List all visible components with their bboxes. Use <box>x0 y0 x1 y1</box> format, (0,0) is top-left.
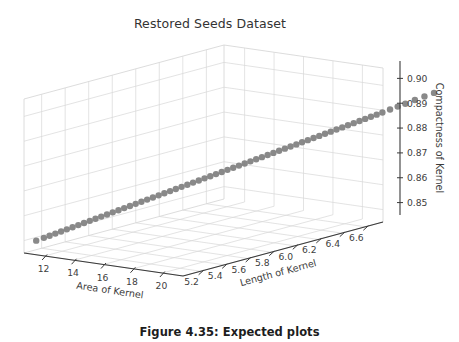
data-point <box>373 111 379 117</box>
data-point <box>305 137 311 143</box>
data-point <box>92 216 98 222</box>
figure-caption: Figure 4.35: Expected plots <box>0 325 459 339</box>
data-point <box>167 188 173 194</box>
data-point <box>293 141 299 147</box>
data-point <box>241 160 247 166</box>
z-axis-tick-label: 0.85 <box>407 197 428 208</box>
data-point <box>316 133 322 139</box>
y-axis-tick-label: 5.8 <box>255 257 270 268</box>
data-point <box>236 162 242 168</box>
data-point <box>161 190 167 196</box>
data-point <box>230 165 236 171</box>
data-point <box>201 175 207 181</box>
y-axis-tick-label: 6.4 <box>326 238 341 249</box>
data-point <box>46 233 52 239</box>
y-axis-tick-label: 5.2 <box>184 276 199 287</box>
y-axis-tick-label: 5.6 <box>231 264 246 275</box>
chart-title: Restored Seeds Dataset <box>0 16 420 31</box>
x-axis-tick-label: 16 <box>97 272 109 283</box>
data-point <box>196 177 202 183</box>
z-axis-tick-label: 0.87 <box>407 147 428 158</box>
y-axis-tick-label: 6.0 <box>278 251 293 262</box>
data-point <box>87 218 93 224</box>
data-point <box>362 116 368 122</box>
data-point <box>259 154 265 160</box>
data-point <box>253 156 259 162</box>
z-axis-tick-label: 0.86 <box>407 172 428 183</box>
data-point <box>264 152 270 158</box>
x-axis-tick-label: 20 <box>156 280 168 291</box>
data-point <box>287 143 293 149</box>
data-point <box>190 179 196 185</box>
data-point <box>104 211 110 217</box>
data-point <box>155 192 161 198</box>
z-axis-tick-label: 0.88 <box>407 122 428 133</box>
data-point <box>98 213 104 219</box>
data-point <box>276 148 282 154</box>
data-point <box>127 203 133 209</box>
data-point <box>64 226 70 232</box>
data-point <box>345 122 351 128</box>
data-point <box>33 237 39 243</box>
data-point <box>270 150 276 156</box>
x-axis-tick-label: 14 <box>67 267 79 278</box>
y-axis-tick-label: 6.2 <box>302 244 317 255</box>
data-point <box>328 128 334 134</box>
z-axis-tick-label: 0.90 <box>407 73 428 84</box>
data-point <box>333 126 339 132</box>
data-point <box>282 145 288 151</box>
data-point <box>150 194 156 200</box>
data-point <box>379 109 385 115</box>
data-point <box>75 222 81 228</box>
data-point <box>299 139 305 145</box>
data-point <box>173 186 179 192</box>
data-point <box>219 169 225 175</box>
data-point <box>207 173 213 179</box>
x-axis-tick-label: 12 <box>38 263 50 274</box>
figure-container: 1214161820Area of Kernel5.25.45.65.86.06… <box>0 0 459 342</box>
y-axis-tick-label: 5.4 <box>208 270 223 281</box>
x-axis-tick-label: 18 <box>126 276 138 287</box>
data-point <box>138 199 144 205</box>
data-point <box>81 220 87 226</box>
data-point <box>351 120 357 126</box>
data-point <box>178 184 184 190</box>
data-point <box>41 235 47 241</box>
data-point <box>52 230 58 236</box>
z-axis-tick-label: 0.89 <box>407 98 428 109</box>
scatter3d-plot: 1214161820Area of Kernel5.25.45.65.86.06… <box>0 0 459 318</box>
data-point <box>387 106 393 112</box>
z-axis-label: Compactness of Kernel <box>434 83 445 193</box>
data-point <box>310 135 316 141</box>
data-point <box>115 207 121 213</box>
data-point <box>121 205 127 211</box>
data-point <box>224 167 230 173</box>
data-point <box>247 158 253 164</box>
data-point <box>132 201 138 207</box>
data-point <box>322 131 328 137</box>
data-point <box>144 196 150 202</box>
data-point <box>356 118 362 124</box>
data-point <box>213 171 219 177</box>
data-point <box>110 209 116 215</box>
data-point <box>368 114 374 120</box>
data-point <box>184 182 190 188</box>
y-axis-tick-label: 6.6 <box>349 232 364 243</box>
data-point <box>69 224 75 230</box>
data-point <box>58 228 64 234</box>
data-point <box>339 124 345 130</box>
